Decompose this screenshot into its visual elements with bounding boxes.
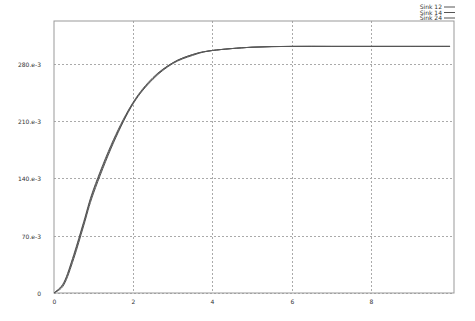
grid-lines xyxy=(54,21,454,294)
y-tick-label: 0 xyxy=(37,290,41,297)
x-tick-label: 6 xyxy=(291,298,295,305)
series-line-sink-14 xyxy=(54,46,450,293)
series-line-sink-12 xyxy=(54,46,450,293)
series-lines xyxy=(54,46,450,293)
y-tick-label: 70.e-3 xyxy=(22,233,41,240)
x-tick-label: 2 xyxy=(132,298,136,305)
line-chart: 070.e-3140.e-3210.e-3280.e-3 02468 Sink … xyxy=(0,0,475,321)
legend: Sink 12Sink 14Sink 24 xyxy=(420,3,455,21)
legend-label: Sink 24 xyxy=(420,14,442,21)
x-tick-label: 4 xyxy=(211,298,215,305)
y-tick-label: 210.e-3 xyxy=(18,118,41,125)
x-tick-label: 0 xyxy=(53,298,57,305)
x-tick-label: 8 xyxy=(370,298,374,305)
series-line-sink-24 xyxy=(54,46,450,293)
y-tick-label: 140.e-3 xyxy=(18,175,41,182)
y-axis-ticks: 070.e-3140.e-3210.e-3280.e-3 xyxy=(18,61,41,297)
plot-frame xyxy=(54,21,454,293)
y-tick-label: 280.e-3 xyxy=(18,61,41,68)
x-axis-ticks: 02468 xyxy=(53,298,374,305)
